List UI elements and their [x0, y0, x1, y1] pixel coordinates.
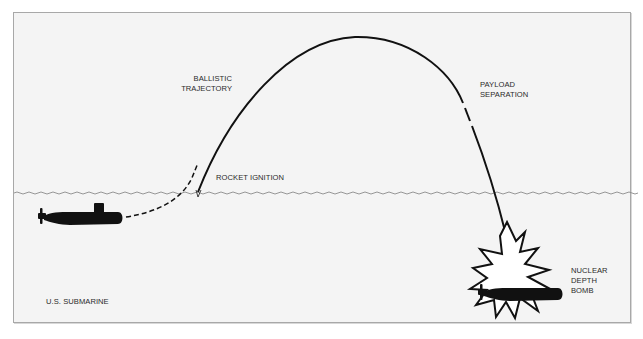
us-submarine-label: U.S. SUBMARINE [46, 297, 109, 307]
ballistic-trajectory-line1: BALLISTIC [176, 74, 232, 84]
reentry-path [472, 126, 506, 235]
ballistic-trajectory-label: BALLISTIC TRAJECTORY [176, 74, 232, 94]
ballistic-trajectory-arc [198, 37, 463, 192]
nuclear-depth-bomb-line3: BOMB [571, 286, 608, 296]
water-surface-line [14, 192, 638, 194]
payload-separation-line1: PAYLOAD [480, 80, 528, 90]
ballistic-trajectory-line2: TRAJECTORY [176, 84, 232, 94]
target-submarine-icon [478, 284, 563, 339]
rocket-ignition-label: ROCKET IGNITION [216, 173, 284, 183]
payload-separation-label: PAYLOAD SEPARATION [480, 80, 528, 100]
us-submarine-icon [38, 203, 123, 225]
underwater-launch-path [126, 163, 198, 217]
diagram-canvas [0, 0, 643, 339]
nuclear-depth-bomb-line2: DEPTH [571, 276, 608, 286]
explosion-icon [470, 222, 552, 318]
payload-separation-line2: SEPARATION [480, 90, 528, 100]
nuclear-depth-bomb-label: NUCLEAR DEPTH BOMB [571, 266, 608, 296]
nuclear-depth-bomb-line1: NUCLEAR [571, 266, 608, 276]
payload-separation-segment [465, 108, 470, 121]
